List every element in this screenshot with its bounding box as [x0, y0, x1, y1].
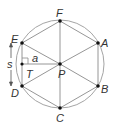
label-T: T — [26, 68, 34, 80]
label-D: D — [11, 87, 19, 99]
label-A: A — [100, 37, 108, 49]
label-P: P — [58, 68, 66, 80]
hexagon-diagram: F A B C D E P a s T — [0, 0, 115, 128]
label-E: E — [11, 33, 19, 45]
diagram-svg: F A B C D E P a s T — [0, 0, 115, 128]
label-C: C — [56, 112, 64, 124]
label-a: a — [32, 52, 38, 64]
label-s: s — [7, 58, 13, 70]
label-F: F — [56, 7, 64, 19]
label-B: B — [101, 83, 108, 95]
